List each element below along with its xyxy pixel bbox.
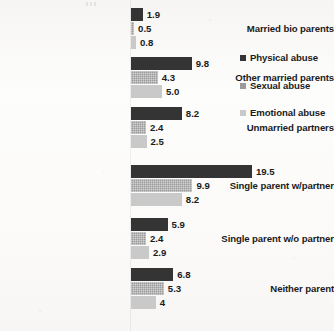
bar-neither-parent-emotional-abuse[interactable] xyxy=(131,296,156,309)
bar-value-label: 2.4 xyxy=(150,123,163,133)
bar-married-bio-parents-physical-abuse[interactable] xyxy=(131,8,143,21)
bar-other-married-parents-emotional-abuse[interactable] xyxy=(131,85,162,98)
category-label: Unmarried partners xyxy=(208,122,334,133)
bar-value-label: 8.2 xyxy=(186,195,199,205)
legend-swatch-emotional-abuse-icon xyxy=(240,110,246,116)
bar-single-parent-w-partner-sexual-abuse[interactable] xyxy=(131,179,192,192)
bar-single-parent-w-o-partner-emotional-abuse[interactable] xyxy=(131,246,149,259)
bar-value-label: 0.5 xyxy=(138,24,151,34)
bar-value-label: 6.8 xyxy=(177,270,190,280)
bar-neither-parent-sexual-abuse[interactable] xyxy=(131,282,164,295)
bar-value-label: 2.9 xyxy=(153,248,166,258)
bar-single-parent-w-partner-emotional-abuse[interactable] xyxy=(131,193,182,206)
bar-chart: Married bio parents1.90.50.8Other marrie… xyxy=(0,0,334,331)
bar-single-parent-w-o-partner-physical-abuse[interactable] xyxy=(131,218,168,231)
bar-value-label: 0.8 xyxy=(140,38,153,48)
legend-label: Physical abuse xyxy=(250,52,318,63)
bar-value-label: 2.4 xyxy=(150,234,163,244)
bar-value-label: 9.8 xyxy=(196,59,209,69)
bar-single-parent-w-partner-physical-abuse[interactable] xyxy=(131,165,252,178)
category-label: Single parent w/o partner xyxy=(208,233,334,244)
legend-item-emotional-abuse[interactable]: Emotional abuse xyxy=(240,107,325,118)
category-label: Single parent w/partner xyxy=(208,180,334,191)
bar-value-label: 9.9 xyxy=(196,181,209,191)
legend-label: Emotional abuse xyxy=(250,107,325,118)
bar-value-label: 4 xyxy=(160,298,165,308)
bar-neither-parent-physical-abuse[interactable] xyxy=(131,268,173,281)
bar-other-married-parents-sexual-abuse[interactable] xyxy=(131,71,158,84)
legend-label: Sexual abuse xyxy=(250,80,310,91)
bar-value-label: 2.5 xyxy=(151,137,164,147)
bar-value-label: 5.3 xyxy=(168,284,181,294)
bar-value-label: 4.3 xyxy=(162,73,175,83)
bar-married-bio-parents-emotional-abuse[interactable] xyxy=(131,36,136,49)
category-label: Married bio parents xyxy=(208,23,334,34)
bar-value-label: 5.0 xyxy=(166,87,179,97)
legend-swatch-sexual-abuse-icon xyxy=(240,83,246,89)
category-label: Neither parent xyxy=(208,283,334,294)
plot-area: Married bio parents1.90.50.8Other marrie… xyxy=(0,0,334,331)
bar-unmarried-partners-emotional-abuse[interactable] xyxy=(131,135,147,148)
bar-value-label: 1.9 xyxy=(147,10,160,20)
bar-value-label: 5.9 xyxy=(172,220,185,230)
legend-item-physical-abuse[interactable]: Physical abuse xyxy=(240,52,318,63)
bar-single-parent-w-o-partner-sexual-abuse[interactable] xyxy=(131,232,146,245)
bar-married-bio-parents-sexual-abuse[interactable] xyxy=(131,22,134,35)
legend-swatch-physical-abuse-icon xyxy=(240,55,246,61)
bar-other-married-parents-physical-abuse[interactable] xyxy=(131,57,192,70)
legend-item-sexual-abuse[interactable]: Sexual abuse xyxy=(240,80,310,91)
bar-unmarried-partners-sexual-abuse[interactable] xyxy=(131,121,146,134)
bar-value-label: 19.5 xyxy=(256,167,275,177)
bar-unmarried-partners-physical-abuse[interactable] xyxy=(131,107,182,120)
bar-value-label: 8.2 xyxy=(186,109,199,119)
